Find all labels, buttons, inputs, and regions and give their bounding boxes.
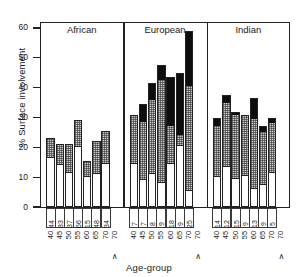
y-tick-label-10: 10	[4, 173, 28, 182]
y-tick-label-50: 50	[4, 53, 28, 62]
group-title-european: European	[123, 24, 206, 35]
y-tick-label-0: 0	[4, 203, 28, 212]
plot-area	[40, 22, 290, 208]
y-tick-30	[33, 117, 40, 118]
over-70-marker: ∧	[193, 253, 203, 261]
group-separator-european	[207, 22, 208, 208]
group-title-african: African	[40, 24, 123, 35]
group-title-indian: Indian	[207, 24, 290, 35]
y-tick-label-60: 60	[4, 23, 28, 32]
y-tick-label-30: 30	[4, 113, 28, 122]
y-tick-0	[33, 206, 40, 207]
age-tick-label: 70	[110, 223, 120, 247]
y-tick-40	[33, 87, 40, 88]
y-tick-60	[33, 27, 40, 28]
chart-container: % Surface involvement 0102030405060 Afri…	[0, 0, 298, 277]
y-tick-50	[33, 57, 40, 58]
group-separator-african	[123, 22, 124, 208]
y-tick-label-20: 20	[4, 143, 28, 152]
age-tick-label: 70	[276, 223, 286, 247]
x-axis-label: Age-group	[0, 262, 298, 273]
age-tick-label: 70	[193, 223, 203, 247]
over-70-marker: ∧	[110, 253, 120, 261]
y-tick-label-40: 40	[4, 83, 28, 92]
y-tick-10	[33, 177, 40, 178]
over-70-marker: ∧	[276, 253, 286, 261]
y-tick-20	[33, 147, 40, 148]
